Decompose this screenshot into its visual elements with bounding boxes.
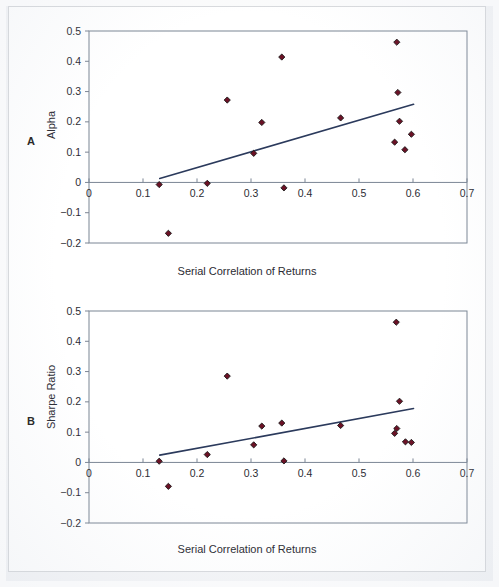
panel-b: B Sharpe Ratio −0.2−0.100.10.20.30.40.50… — [9, 295, 485, 567]
data-point — [392, 139, 398, 145]
y-tick-label: −0.2 — [60, 517, 81, 529]
figure-card: A Alpha −0.2−0.100.10.20.30.40.500.10.20… — [8, 6, 486, 572]
x-tick-label: 0 — [86, 467, 92, 479]
data-point — [165, 483, 171, 489]
data-point — [204, 180, 210, 186]
x-tick-label: 0.2 — [190, 467, 205, 479]
data-point — [279, 54, 285, 60]
panel-a-plot: −0.2−0.100.10.20.30.40.500.10.20.30.40.5… — [9, 15, 485, 265]
panel-b-x-axis-title: Serial Correlation of Returns — [9, 543, 485, 555]
y-tick-label: −0.2 — [60, 237, 81, 249]
data-point — [224, 373, 230, 379]
data-point — [156, 458, 162, 464]
data-point — [281, 458, 287, 464]
y-tick-label: 0.1 — [66, 146, 81, 158]
x-tick-label: 0.4 — [298, 187, 313, 199]
x-tick-label: 0.1 — [136, 467, 151, 479]
panel-b-plot: −0.2−0.100.10.20.30.40.500.10.20.30.40.5… — [9, 295, 485, 543]
y-tick-label: 0.2 — [66, 115, 81, 127]
data-point — [396, 398, 402, 404]
y-tick-label: 0.2 — [66, 395, 81, 407]
data-point — [408, 131, 414, 137]
x-tick-label: 0.6 — [406, 467, 421, 479]
x-tick-label: 0.3 — [244, 187, 259, 199]
y-tick-label: 0 — [75, 176, 81, 188]
y-tick-label: −0.1 — [60, 486, 81, 498]
y-tick-label: 0.3 — [66, 365, 81, 377]
y-tick-label: 0.4 — [66, 335, 81, 347]
figure-root: A Alpha −0.2−0.100.10.20.30.40.500.10.20… — [0, 0, 499, 587]
y-tick-label: 0.1 — [66, 426, 81, 438]
x-tick-label: 0.7 — [460, 187, 475, 199]
x-tick-label: 0.3 — [244, 467, 259, 479]
trendline — [160, 409, 414, 456]
plot-frame — [89, 31, 467, 243]
data-point — [338, 422, 344, 428]
x-tick-label: 0.2 — [190, 187, 205, 199]
data-point — [393, 319, 399, 325]
x-tick-label: 0.6 — [406, 187, 421, 199]
data-point — [396, 118, 402, 124]
panel-a: A Alpha −0.2−0.100.10.20.30.40.500.10.20… — [9, 15, 485, 291]
data-point — [402, 147, 408, 153]
x-tick-label: 0.4 — [298, 467, 313, 479]
data-point — [281, 185, 287, 191]
data-point — [224, 97, 230, 103]
data-point — [338, 115, 344, 121]
y-tick-label: 0.5 — [66, 25, 81, 37]
data-point — [394, 39, 400, 45]
data-point — [395, 89, 401, 95]
x-tick-label: 0 — [86, 187, 92, 199]
x-tick-label: 0.1 — [136, 187, 151, 199]
x-tick-label: 0.5 — [352, 467, 367, 479]
y-tick-label: 0 — [75, 456, 81, 468]
data-point — [259, 119, 265, 125]
y-tick-label: 0.4 — [66, 55, 81, 67]
data-point — [259, 423, 265, 429]
x-tick-label: 0.5 — [352, 187, 367, 199]
plot-frame — [89, 311, 467, 523]
panel-a-x-axis-title: Serial Correlation of Returns — [9, 265, 485, 277]
data-point — [204, 451, 210, 457]
data-point — [402, 439, 408, 445]
y-tick-label: −0.1 — [60, 206, 81, 218]
y-tick-label: 0.5 — [66, 305, 81, 317]
data-point — [408, 439, 414, 445]
data-point — [251, 442, 257, 448]
y-tick-label: 0.3 — [66, 85, 81, 97]
x-tick-label: 0.7 — [460, 467, 475, 479]
data-point — [279, 420, 285, 426]
data-point — [165, 230, 171, 236]
trendline — [160, 104, 414, 178]
